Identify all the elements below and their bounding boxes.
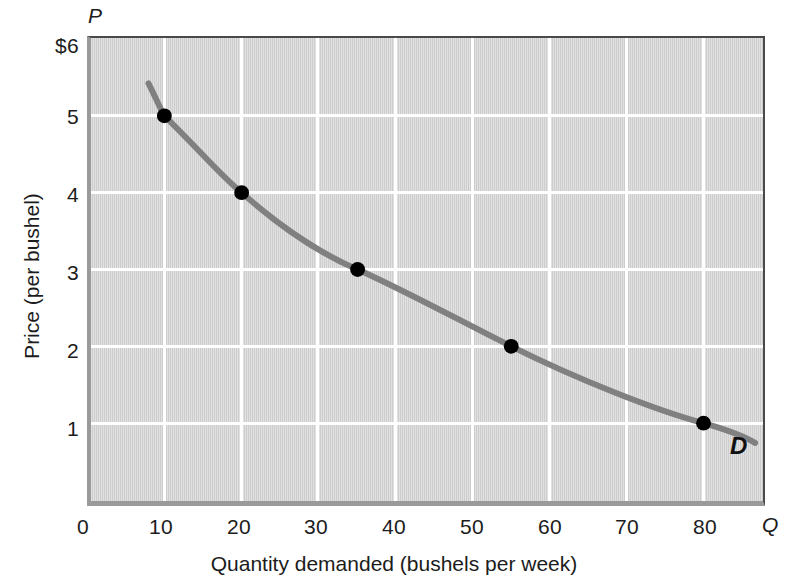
y-axis-symbol: P bbox=[88, 4, 102, 28]
x-axis-ticks: 0 10 20 30 40 50 60 70 80 bbox=[0, 0, 788, 585]
x-tick-0: 0 bbox=[53, 516, 113, 537]
x-tick-30: 30 bbox=[286, 516, 346, 537]
x-tick-40: 40 bbox=[364, 516, 424, 537]
x-tick-10: 10 bbox=[131, 516, 191, 537]
y-axis-title: Price (per bushel) bbox=[20, 131, 44, 421]
demand-curve-figure: $6 5 4 3 2 1 0 10 20 30 40 50 60 70 80 P… bbox=[0, 0, 788, 585]
x-axis-symbol: Q bbox=[762, 513, 778, 537]
demand-curve-label: D bbox=[730, 432, 747, 460]
x-tick-20: 20 bbox=[209, 516, 269, 537]
x-tick-80: 80 bbox=[675, 516, 735, 537]
x-tick-70: 70 bbox=[597, 516, 657, 537]
x-tick-50: 50 bbox=[442, 516, 502, 537]
x-axis-title: Quantity demanded (bushels per week) bbox=[0, 552, 788, 576]
x-tick-60: 60 bbox=[520, 516, 580, 537]
